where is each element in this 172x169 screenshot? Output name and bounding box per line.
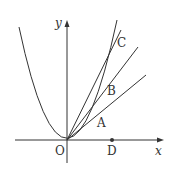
y-axis-label: y (54, 16, 62, 30)
x-axis-arrow-icon (157, 138, 164, 143)
origin-label: O (55, 144, 65, 158)
point-A-label: A (96, 116, 106, 130)
y-axis-arrow-icon (65, 20, 70, 27)
diagram-canvas: y x O D A B C (0, 0, 172, 169)
x-axis-label: x (155, 144, 162, 158)
point-D-label: D (107, 144, 117, 158)
point-B-label: B (107, 84, 116, 98)
point-C-label: C (117, 36, 126, 50)
point-D-marker (110, 138, 114, 142)
